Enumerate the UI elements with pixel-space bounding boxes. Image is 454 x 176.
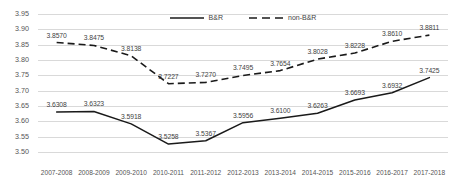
- data-label: 3.8228: [345, 43, 365, 50]
- data-label: 3.5956: [233, 113, 253, 120]
- y-axis-tick-label: 3.55: [0, 133, 29, 140]
- data-label: 3.6263: [307, 103, 327, 110]
- plot-area: 3.953.903.853.803.753.703.653.603.553.50…: [38, 14, 448, 152]
- x-axis-tick-label: 2009-2010: [115, 170, 147, 176]
- data-label: 3.7495: [233, 66, 253, 73]
- x-axis-tick-label: 2007-2008: [41, 170, 73, 176]
- x-axis-tick-label: 2017-2018: [414, 170, 446, 176]
- data-label: 3.6932: [382, 83, 402, 90]
- y-axis-tick-label: 3.95: [0, 10, 29, 17]
- line-chart: 3.953.903.853.803.753.703.653.603.553.50…: [0, 0, 454, 176]
- y-axis-tick-label: 3.80: [0, 56, 29, 63]
- y-axis-tick-label: 3.85: [0, 41, 29, 48]
- x-axis-tick-label: 2016-2017: [376, 170, 408, 176]
- data-label: 3.5918: [121, 114, 141, 121]
- series-line-non-b-r: [57, 35, 430, 84]
- gridline: [38, 152, 448, 153]
- y-axis-tick-label: 3.70: [0, 87, 29, 94]
- data-label: 3.7270: [196, 73, 216, 80]
- y-axis-tick-label: 3.90: [0, 26, 29, 33]
- data-label: 3.6693: [345, 90, 365, 97]
- data-label: 3.8475: [84, 36, 104, 43]
- data-label: 3.6323: [84, 102, 104, 109]
- data-label: 3.8811: [420, 25, 440, 32]
- y-axis-tick-label: 3.75: [0, 72, 29, 79]
- data-label: 3.7654: [270, 61, 290, 68]
- data-label: 3.6100: [270, 108, 290, 115]
- x-axis-tick-label: 2015-2016: [339, 170, 371, 176]
- data-label: 3.8610: [382, 31, 402, 38]
- x-axis-tick-label: 2011-2012: [190, 170, 221, 176]
- x-axis-tick-label: 2012-2013: [227, 170, 259, 176]
- data-label: 3.8570: [47, 33, 67, 40]
- data-label: 3.6308: [47, 102, 67, 109]
- y-axis-tick-label: 3.65: [0, 102, 29, 109]
- series-line-b-r: [57, 78, 430, 144]
- x-axis-tick-label: 2014-2015: [302, 170, 334, 176]
- x-axis-tick-label: 2013-2014: [264, 170, 296, 176]
- data-label: 3.8138: [121, 46, 141, 53]
- data-label: 3.8028: [307, 49, 327, 56]
- y-axis-tick-label: 3.50: [0, 148, 29, 155]
- x-axis-tick-label: 2010-2011: [153, 170, 184, 176]
- data-label: 3.5258: [158, 134, 178, 141]
- x-axis-tick-label: 2008-2009: [78, 170, 110, 176]
- data-label: 3.7227: [158, 74, 178, 81]
- data-label: 3.5367: [196, 131, 216, 138]
- y-axis-tick-label: 3.60: [0, 118, 29, 125]
- data-label: 3.7425: [419, 68, 439, 75]
